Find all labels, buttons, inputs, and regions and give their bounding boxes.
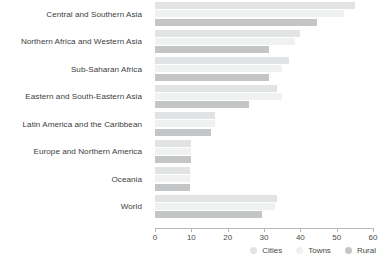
plot-area	[155, 0, 373, 228]
bar-chart: Central and Southern AsiaNorthern Africa…	[0, 0, 384, 265]
bar-towns	[155, 65, 282, 72]
bar-rural	[155, 129, 211, 136]
bar-cities	[155, 30, 300, 37]
bar-towns	[155, 38, 295, 45]
legend-item-towns[interactable]: Towns	[296, 246, 331, 255]
category-label: Northern Africa and Western Asia	[21, 37, 142, 46]
x-tick	[373, 228, 374, 232]
bar-cities	[155, 167, 190, 174]
x-tick	[155, 228, 156, 232]
bar-towns	[155, 120, 215, 127]
category-label: Sub-Saharan Africa	[71, 64, 142, 73]
bar-towns	[155, 93, 282, 100]
bar-rural	[155, 101, 249, 108]
category-label: Latin America and the Caribbean	[23, 119, 142, 128]
x-tick	[228, 228, 229, 232]
chart-legend: CitiesTownsRural	[0, 246, 384, 255]
bar-cities	[155, 195, 277, 202]
bar-cities	[155, 2, 355, 9]
bar-rural	[155, 74, 269, 81]
x-tick-label: 30	[260, 233, 269, 242]
x-tick-label: 10	[187, 233, 196, 242]
bar-cities	[155, 57, 289, 64]
legend-swatch-icon	[345, 247, 352, 254]
legend-label: Cities	[262, 246, 282, 255]
bar-rural	[155, 211, 262, 218]
legend-item-cities[interactable]: Cities	[250, 246, 282, 255]
category-label: Oceania	[112, 174, 143, 183]
category-label: World	[121, 202, 142, 211]
x-tick-label: 20	[223, 233, 232, 242]
category-label: Europe and Northern America	[34, 147, 142, 156]
x-tick-label: 50	[332, 233, 341, 242]
x-tick	[191, 228, 192, 232]
legend-label: Rural	[357, 246, 376, 255]
x-tick-label: 60	[369, 233, 378, 242]
bar-towns	[155, 148, 191, 155]
legend-swatch-icon	[250, 247, 257, 254]
bar-rural	[155, 46, 269, 53]
bar-towns	[155, 175, 190, 182]
bar-towns	[155, 203, 275, 210]
legend-item-rural[interactable]: Rural	[345, 246, 376, 255]
category-label: Eastern and South-Eastern Asia	[25, 92, 142, 101]
bar-rural	[155, 156, 191, 163]
bar-cities	[155, 112, 215, 119]
bar-rural	[155, 19, 317, 26]
category-label: Central and Southern Asia	[46, 9, 142, 18]
x-tick-label: 40	[296, 233, 305, 242]
legend-label: Towns	[308, 246, 331, 255]
bar-rural	[155, 184, 190, 191]
bar-cities	[155, 85, 277, 92]
bar-towns	[155, 10, 344, 17]
x-tick	[300, 228, 301, 232]
legend-swatch-icon	[296, 247, 303, 254]
x-tick	[337, 228, 338, 232]
x-tick	[264, 228, 265, 232]
x-tick-label: 0	[153, 233, 157, 242]
bar-cities	[155, 140, 191, 147]
